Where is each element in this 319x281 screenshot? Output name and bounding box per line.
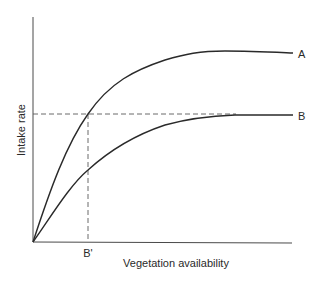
chart: A B B' Vegetation availability Intake ra…	[0, 0, 319, 281]
curve-a-label: A	[298, 48, 306, 60]
curve-a	[33, 51, 293, 242]
y-axis-title: Intake rate	[15, 104, 27, 156]
curve-b-label: B	[298, 110, 305, 122]
x-axis	[33, 242, 292, 243]
x-tick-b-prime: B'	[83, 247, 92, 259]
x-axis-title: Vegetation availability	[123, 257, 229, 269]
curve-b	[33, 115, 293, 242]
